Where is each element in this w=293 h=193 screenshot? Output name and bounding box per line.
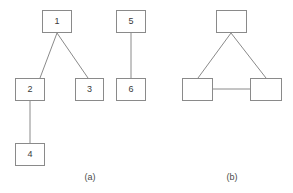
- graph-node[interactable]: 4: [15, 143, 45, 166]
- panel-caption: (a): [60, 172, 120, 182]
- graph-edge: [40, 33, 57, 78]
- figure-canvas: 123456 (a)(b): [0, 0, 293, 193]
- graph-edge: [198, 33, 231, 78]
- graph-node[interactable]: [216, 10, 247, 33]
- graph-node[interactable]: 2: [15, 78, 45, 101]
- graph-node[interactable]: [250, 78, 282, 101]
- graph-node[interactable]: 3: [75, 78, 104, 101]
- graph-node[interactable]: 5: [116, 10, 146, 33]
- panel-caption: (b): [202, 172, 262, 182]
- graph-node[interactable]: [182, 78, 213, 101]
- graph-node[interactable]: 6: [116, 78, 146, 101]
- graph-edge: [57, 33, 88, 78]
- graph-edge: [231, 33, 266, 78]
- graph-node[interactable]: 1: [42, 10, 72, 33]
